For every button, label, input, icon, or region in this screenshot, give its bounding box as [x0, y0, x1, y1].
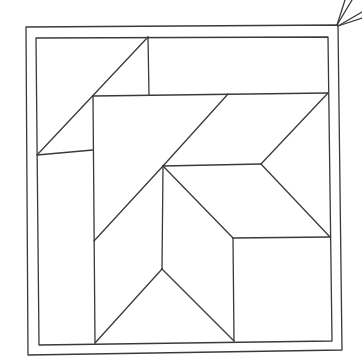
pattern-line — [93, 93, 328, 96]
pattern-line — [163, 164, 261, 166]
pattern-line — [163, 166, 233, 238]
pattern-line — [162, 166, 163, 269]
quilt-svg — [0, 0, 362, 362]
frames — [26, 25, 342, 355]
hanging-strings — [337, 0, 362, 26]
pattern-line — [148, 37, 149, 95]
pattern-line — [163, 94, 228, 166]
pattern-line — [261, 93, 328, 164]
pattern-line — [233, 237, 330, 238]
pattern-line — [93, 96, 95, 343]
pattern-line — [95, 269, 162, 343]
inner-frame — [36, 37, 332, 345]
outer-frame — [26, 25, 342, 355]
pattern-line — [261, 164, 330, 237]
pattern-segments — [37, 37, 330, 343]
pattern-line — [37, 150, 93, 155]
pattern-line — [162, 269, 234, 341]
quilt-block-drawing — [0, 0, 362, 362]
hanging-string — [337, 0, 352, 25]
pattern-line — [233, 238, 234, 341]
pattern-line — [94, 166, 163, 241]
